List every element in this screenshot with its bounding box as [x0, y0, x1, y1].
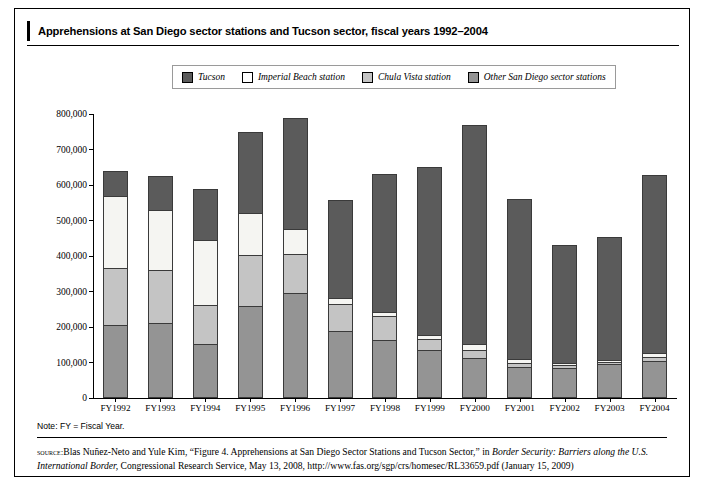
x-axis-label-fy1994: FY1994	[183, 403, 228, 413]
y-axis-tick-label: 700,000	[41, 145, 87, 155]
bar-segment-other_san_diego	[552, 368, 577, 398]
bar-segment-chula_vista	[193, 305, 218, 344]
y-axis-tick-500000: 500,000	[41, 216, 93, 226]
note-divider	[37, 437, 667, 438]
x-axis-tick-mark	[115, 398, 116, 402]
x-axis-label-fy2004: FY2004	[632, 403, 677, 413]
note-text: Note: FY = Fiscal Year.	[37, 421, 125, 431]
y-axis-tick-label: 300,000	[41, 287, 87, 297]
y-axis-tick-400000: 400,000	[41, 251, 93, 261]
x-axis-label-fy1995: FY1995	[228, 403, 273, 413]
bar-segment-other_san_diego	[507, 367, 532, 398]
legend-swatch-icon-chula_vista	[362, 72, 373, 83]
legend-item-other_san_diego: Other San Diego sector stations	[468, 72, 606, 83]
bar-segment-chula_vista	[372, 316, 397, 340]
bar-segment-other_san_diego	[238, 306, 263, 398]
bar-slot-fy1995	[228, 114, 273, 398]
stacked-bar-fy1994[interactable]	[193, 189, 218, 398]
x-axis-label-fy1992: FY1992	[93, 403, 138, 413]
stacked-bar-fy1995[interactable]	[238, 132, 263, 398]
bar-segment-imperial_beach	[148, 210, 173, 270]
x-axis-tick-mark	[520, 398, 521, 402]
chart-legend: TucsonImperial Beach stationChula Vista …	[172, 65, 616, 89]
y-axis-tick-100000: 100,000	[41, 358, 93, 368]
bar-segment-other_san_diego	[328, 331, 353, 398]
legend-label-other_san_diego: Other San Diego sector stations	[484, 72, 606, 82]
legend-item-chula_vista: Chula Vista station	[362, 72, 451, 83]
bar-segment-imperial_beach	[283, 229, 308, 254]
x-axis-tick-mark	[295, 398, 296, 402]
stacked-bar-fy2001[interactable]	[507, 199, 532, 398]
bar-segment-other_san_diego	[597, 364, 622, 398]
bar-segment-tucson	[372, 174, 397, 311]
stacked-bar-fy1997[interactable]	[328, 200, 353, 398]
stacked-bar-fy1992[interactable]	[103, 171, 128, 398]
stacked-bar-fy2000[interactable]	[462, 125, 487, 398]
x-axis-tick-mark	[565, 398, 566, 402]
y-axis-tick-label: 400,000	[41, 251, 87, 261]
stacked-bar-fy1993[interactable]	[148, 176, 173, 398]
y-axis-tick-200000: 200,000	[41, 322, 93, 332]
bar-segment-tucson	[193, 189, 218, 240]
source-label: source:	[37, 447, 63, 457]
bar-group	[93, 114, 677, 398]
bar-slot-fy1999	[407, 114, 452, 398]
bar-segment-tucson	[238, 132, 263, 213]
bar-slot-fy2003	[587, 114, 632, 398]
x-axis-label-fy1993: FY1993	[138, 403, 183, 413]
bar-segment-tucson	[642, 175, 667, 353]
stacked-bar-fy1996[interactable]	[283, 118, 308, 398]
bar-segment-chula_vista	[238, 255, 263, 305]
x-axis-label-fy2000: FY2000	[452, 403, 497, 413]
x-axis-tick-mark	[205, 398, 206, 402]
legend-item-imperial_beach: Imperial Beach station	[242, 72, 345, 83]
legend-label-imperial_beach: Imperial Beach station	[258, 72, 345, 82]
y-axis-tick-label: 200,000	[41, 322, 87, 332]
bar-segment-imperial_beach	[238, 213, 263, 256]
y-axis-tick-800000: 800,000	[41, 109, 93, 119]
bar-segment-tucson	[103, 171, 128, 196]
x-axis-label-fy2002: FY2002	[542, 403, 587, 413]
stacked-bar-fy2004[interactable]	[642, 175, 667, 398]
stacked-bar-fy2002[interactable]	[552, 245, 577, 398]
stacked-bar-fy1999[interactable]	[417, 167, 442, 398]
bar-slot-fy1992	[93, 114, 138, 398]
y-axis-tick-label: 800,000	[41, 109, 87, 119]
y-axis-tick-label: 600,000	[41, 180, 87, 190]
y-axis-tick-0: 0	[41, 393, 93, 403]
bar-segment-tucson	[328, 200, 353, 298]
source-part-1: Blas Nuñez-Neto and Yule Kim, “Figure 4.…	[63, 446, 492, 457]
title-accent-rule	[27, 21, 30, 41]
stacked-bar-fy2003[interactable]	[597, 237, 622, 399]
x-axis-tick-mark	[340, 398, 341, 402]
bar-segment-other_san_diego	[148, 323, 173, 398]
bar-segment-tucson	[597, 237, 622, 360]
stacked-bar-fy1998[interactable]	[372, 174, 397, 398]
page-title: Apprehensions at San Diego sector statio…	[38, 25, 488, 37]
bar-slot-fy1997	[318, 114, 363, 398]
y-axis-tick-700000: 700,000	[41, 145, 93, 155]
x-axis-label-fy1997: FY1997	[318, 403, 363, 413]
bar-segment-chula_vista	[462, 350, 487, 358]
x-axis-tick-mark	[430, 398, 431, 402]
y-axis-tick-label: 0	[41, 393, 87, 403]
bar-slot-fy2001	[497, 114, 542, 398]
bar-segment-imperial_beach	[103, 196, 128, 269]
y-axis-tick-300000: 300,000	[41, 287, 93, 297]
x-axis-label-fy2001: FY2001	[497, 403, 542, 413]
x-axis-tick-mark	[610, 398, 611, 402]
x-axis-label-fy1998: FY1998	[363, 403, 408, 413]
y-axis-tick-label: 500,000	[41, 216, 87, 226]
bar-segment-tucson	[552, 245, 577, 362]
x-axis-tick-mark	[655, 398, 656, 402]
bar-segment-other_san_diego	[372, 340, 397, 398]
source-part-2: Congressional Research Service, May 13, …	[118, 460, 574, 471]
x-axis-labels: FY1992FY1993FY1994FY1995FY1996FY1997FY19…	[93, 403, 677, 413]
figure-title-bar: Apprehensions at San Diego sector statio…	[27, 20, 667, 42]
x-axis-tick-mark	[475, 398, 476, 402]
bar-slot-fy2002	[542, 114, 587, 398]
bar-slot-fy1996	[273, 114, 318, 398]
bar-segment-tucson	[148, 176, 173, 210]
x-axis-tick-mark	[385, 398, 386, 402]
plot-area: 0100,000200,000300,000400,000500,000600,…	[93, 114, 677, 398]
